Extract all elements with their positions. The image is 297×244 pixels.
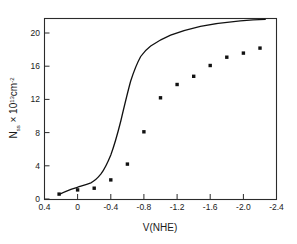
y-axis-title-unit: cm [8,83,19,96]
data-point [93,187,96,190]
y-axis-title-unit-exp: -2 [9,77,15,83]
y-axis-title-main: N [8,131,19,138]
x-tick-label: -1.6 [203,202,218,212]
data-point [126,162,129,165]
y-tick-label: 4 [35,161,40,171]
y-tick-label: 20 [31,28,41,38]
chart-figure: 0 4 8 12 16 20 0.4 0 -0.4 -0.8 -1.2 -1.6 [0,0,297,244]
data-point [258,46,261,49]
y-axis-title-mult: × 10 [8,102,19,125]
data-point [57,192,60,195]
data-point [242,51,245,54]
x-tick-label: -0.4 [103,202,118,212]
x-tick-label: 0 [75,202,80,212]
y-tick-label: 8 [35,128,40,138]
x-tick-label: 0.4 [39,202,51,212]
data-point [159,96,162,99]
x-tick-label: -2.0 [236,202,251,212]
x-axis-title: V(NHE) [143,222,177,233]
x-tick-label: -2.4 [269,202,284,212]
data-point [192,75,195,78]
data-point [76,188,79,191]
x-tick-label: -1.2 [170,202,185,212]
data-point [225,56,228,59]
y-tick-label: 12 [31,94,41,104]
data-point [175,83,178,86]
y-tick-label: 16 [31,61,41,71]
data-point [109,178,112,181]
x-tick-label: -0.8 [137,202,152,212]
data-point [209,64,212,67]
data-point [142,130,145,133]
chart-svg: 0 4 8 12 16 20 0.4 0 -0.4 -0.8 -1.2 -1.6 [0,0,297,244]
